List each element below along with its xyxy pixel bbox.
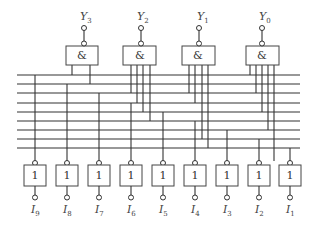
svg-text:Y1: Y1	[197, 10, 209, 25]
svg-text:Y3: Y3	[80, 10, 92, 25]
svg-text:1: 1	[160, 169, 167, 182]
svg-text:I2: I2	[254, 203, 264, 218]
svg-text:I4: I4	[190, 203, 200, 218]
nand-gate-y0: & Y0	[246, 10, 279, 65]
svg-text:I5: I5	[158, 203, 168, 218]
svg-text:I8: I8	[62, 203, 72, 218]
svg-text:I6: I6	[126, 203, 136, 218]
bus-lines	[17, 75, 300, 148]
nand-gate-y3: & Y3	[66, 10, 98, 65]
svg-text:&: &	[193, 49, 203, 62]
svg-text:&: &	[135, 49, 145, 62]
svg-text:1: 1	[224, 169, 231, 182]
svg-text:I7: I7	[94, 203, 104, 218]
svg-text:I1: I1	[285, 203, 295, 218]
inverter-i1: 1 I1	[279, 161, 301, 219]
nand-gate-y2: & Y2	[123, 10, 156, 65]
svg-text:I3: I3	[222, 203, 232, 218]
svg-text:I9: I9	[30, 203, 40, 218]
gate-input-wires	[72, 65, 274, 161]
inverter-i7: 1 I7	[88, 161, 110, 219]
svg-text:1: 1	[128, 169, 135, 182]
inverter-i8: 1 I8	[56, 161, 78, 219]
inverters: 1 I9 1 I8 1 I7 1 I6	[24, 161, 301, 219]
svg-text:&: &	[257, 49, 267, 62]
svg-text:1: 1	[96, 169, 103, 182]
svg-text:Y0: Y0	[259, 10, 271, 25]
svg-text:1: 1	[64, 169, 71, 182]
svg-text:&: &	[77, 49, 87, 62]
inverter-i9: 1 I9	[24, 161, 46, 219]
inverter-i3: 1 I3	[216, 161, 238, 219]
nand-gate-y1: & Y1	[182, 10, 215, 65]
encoder-diagram: & Y3 & Y2 & Y1 & Y0 1	[0, 0, 316, 230]
inverter-i2: 1 I2	[248, 161, 270, 219]
svg-text:Y2: Y2	[137, 10, 149, 25]
inverter-i5: 1 I5	[152, 161, 174, 219]
inverter-i4: 1 I4	[184, 161, 206, 219]
svg-text:1: 1	[32, 169, 39, 182]
svg-text:1: 1	[256, 169, 263, 182]
svg-text:1: 1	[287, 169, 294, 182]
inverter-i6: 1 I6	[120, 161, 142, 219]
svg-text:1: 1	[192, 169, 199, 182]
